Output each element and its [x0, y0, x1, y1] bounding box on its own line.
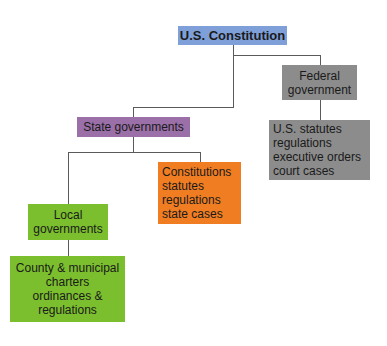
federal-government-node: Federal government — [282, 65, 357, 100]
connector-line — [233, 55, 320, 56]
federal-source-item: court cases — [273, 164, 370, 178]
local-source-item: County & municipal — [16, 261, 119, 275]
federal-label-line2: government — [288, 83, 351, 97]
federal-source-item: executive orders — [273, 150, 370, 164]
federal-label-line1: Federal — [299, 69, 340, 83]
federal-source-item: regulations — [273, 136, 370, 150]
state-source-item: statutes — [162, 179, 241, 193]
constitution-node: U.S. Constitution — [178, 26, 287, 45]
connector-line — [68, 240, 69, 256]
state-governments-node: State governments — [77, 117, 190, 137]
connector-line — [68, 152, 69, 204]
connector-line — [133, 107, 134, 117]
connector-line — [320, 55, 321, 65]
connector-line — [133, 107, 234, 108]
state-sources-node: Constitutions statutes regulations state… — [158, 162, 241, 224]
connector-line — [200, 152, 201, 162]
state-source-item: state cases — [162, 207, 241, 221]
connector-line — [133, 137, 134, 152]
local-label-line1: Local — [54, 208, 83, 222]
state-source-item: Constitutions — [162, 165, 241, 179]
constitution-label: U.S. Constitution — [180, 29, 285, 43]
local-source-item: charters — [46, 275, 89, 289]
local-sources-node: County & municipal charters ordinances &… — [10, 256, 125, 322]
local-source-item: ordinances & — [32, 289, 102, 303]
local-label-line2: governments — [33, 222, 102, 236]
connector-line — [320, 100, 321, 120]
local-governments-node: Local governments — [28, 204, 108, 240]
federal-source-item: U.S. statutes — [273, 122, 370, 136]
state-source-item: regulations — [162, 193, 241, 207]
state-label: State governments — [83, 120, 184, 134]
connector-line — [68, 152, 201, 153]
federal-sources-node: U.S. statutes regulations executive orde… — [269, 120, 370, 180]
local-source-item: regulations — [38, 303, 97, 317]
